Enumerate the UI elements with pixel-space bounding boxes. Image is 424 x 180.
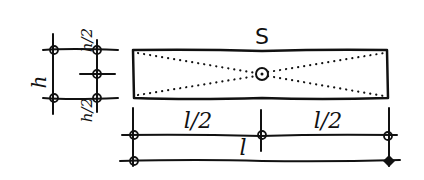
length-dimension: l/2 l/2 l [120, 108, 400, 167]
section-label: S [255, 24, 269, 49]
height-total-label: h [27, 76, 51, 89]
half-length-line [122, 135, 397, 136]
half-length-right-label: l/2 [314, 108, 342, 133]
tick-marker-icon [50, 46, 101, 102]
section-outline [133, 50, 388, 99]
total-length-line [120, 160, 400, 161]
total-length-label: l [239, 135, 246, 160]
height-half-top-label: h/2 [78, 28, 96, 52]
half-length-left-label: l/2 [184, 108, 212, 133]
height-half-bottom-label: h/2 [78, 98, 96, 122]
section-diagram: h h/2 h/2 S l/2 l/2 l [0, 0, 424, 180]
diamond-marker-icon [383, 155, 395, 167]
height-dimension: h h/2 h/2 [27, 28, 118, 122]
center-dot-icon [261, 73, 264, 76]
section-rectangle: S [133, 24, 388, 99]
